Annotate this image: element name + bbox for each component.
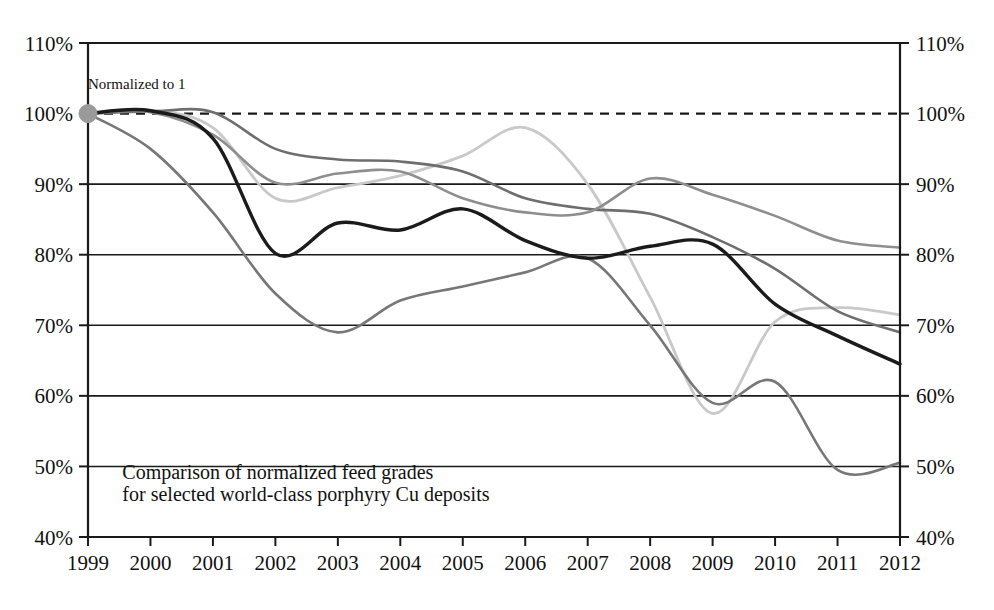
feed-grade-line-chart: 40%50%60%70%80%90%100%110% 40%50%60%70%8… xyxy=(0,0,994,610)
chart-caption-line-2: for selected world-class porphyry Cu dep… xyxy=(122,483,489,506)
x-axis-label-2011: 2011 xyxy=(817,551,858,575)
y-axis-right-label-50: 50% xyxy=(916,455,955,479)
x-axis-label-2002: 2002 xyxy=(254,551,296,575)
x-axis-label-2012: 2012 xyxy=(879,551,921,575)
origin-marker-group xyxy=(79,105,97,123)
x-axis-label-2005: 2005 xyxy=(442,551,484,575)
y-axis-right-label-110: 110% xyxy=(916,32,964,56)
y-axis-left-label-100: 100% xyxy=(24,102,73,126)
y-axis-left-label-40: 40% xyxy=(35,526,74,550)
normalized-to-1-label: Normalized to 1 xyxy=(88,76,185,92)
x-axis-label-2008: 2008 xyxy=(629,551,671,575)
x-axis-label-2009: 2009 xyxy=(692,551,734,575)
x-axis-label-2003: 2003 xyxy=(317,551,359,575)
normalized-origin-dot xyxy=(79,105,97,123)
y-axis-right-label-80: 80% xyxy=(916,243,955,267)
y-axis-left-label-70: 70% xyxy=(35,314,74,338)
y-axis-left-label-90: 90% xyxy=(35,173,74,197)
y-axis-right-label-40: 40% xyxy=(916,526,955,550)
x-axis-label-2001: 2001 xyxy=(192,551,234,575)
x-axis-label-2007: 2007 xyxy=(567,551,609,575)
y-axis-left-label-110: 110% xyxy=(25,32,73,56)
x-axis-labels: 1999200020012002200320042005200620072008… xyxy=(67,551,921,575)
y-axis-right-label-70: 70% xyxy=(916,314,955,338)
x-axis-label-2006: 2006 xyxy=(504,551,546,575)
y-axis-left-labels: 40%50%60%70%80%90%100%110% xyxy=(24,32,73,550)
chart-caption-line-1: Comparison of normalized feed grades xyxy=(122,461,433,484)
y-axis-right-label-60: 60% xyxy=(916,384,955,408)
chart-container: 40%50%60%70%80%90%100%110% 40%50%60%70%8… xyxy=(0,0,994,610)
y-axis-left-label-80: 80% xyxy=(35,243,74,267)
y-axis-left-label-60: 60% xyxy=(35,384,74,408)
x-axis-label-2004: 2004 xyxy=(379,551,422,575)
y-axis-right-labels: 40%50%60%70%80%90%100%110% xyxy=(916,32,965,550)
x-axis-label-2000: 2000 xyxy=(129,551,171,575)
x-axis-label-1999: 1999 xyxy=(67,551,109,575)
y-axis-right-label-90: 90% xyxy=(916,173,955,197)
y-axis-right-label-100: 100% xyxy=(916,102,965,126)
y-axis-left-label-50: 50% xyxy=(35,455,74,479)
x-axis-label-2010: 2010 xyxy=(754,551,796,575)
